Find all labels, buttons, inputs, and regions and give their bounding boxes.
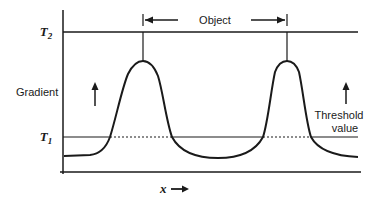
arrow-right-icon: [182, 186, 189, 193]
threshold-arrow-up-icon: [343, 82, 350, 104]
t1-label: T1: [40, 129, 52, 146]
x-axis-label: x: [159, 181, 167, 196]
threshold-label-line2: value: [332, 122, 358, 134]
object-span-indicator: Object: [143, 14, 287, 26]
t2-label: T2: [40, 24, 53, 41]
threshold-label: Threshold: [315, 109, 364, 121]
y-axis-label: Gradient: [16, 86, 58, 98]
object-label: Object: [199, 14, 231, 26]
arrow-left-icon: [145, 17, 153, 24]
x-axis-label-group: x: [159, 181, 189, 196]
arrow-right-icon: [277, 17, 285, 24]
arrow-up-icon: [92, 82, 99, 106]
gradient-threshold-diagram: Object T2 T1 Gradient Threshold value x: [0, 0, 386, 205]
